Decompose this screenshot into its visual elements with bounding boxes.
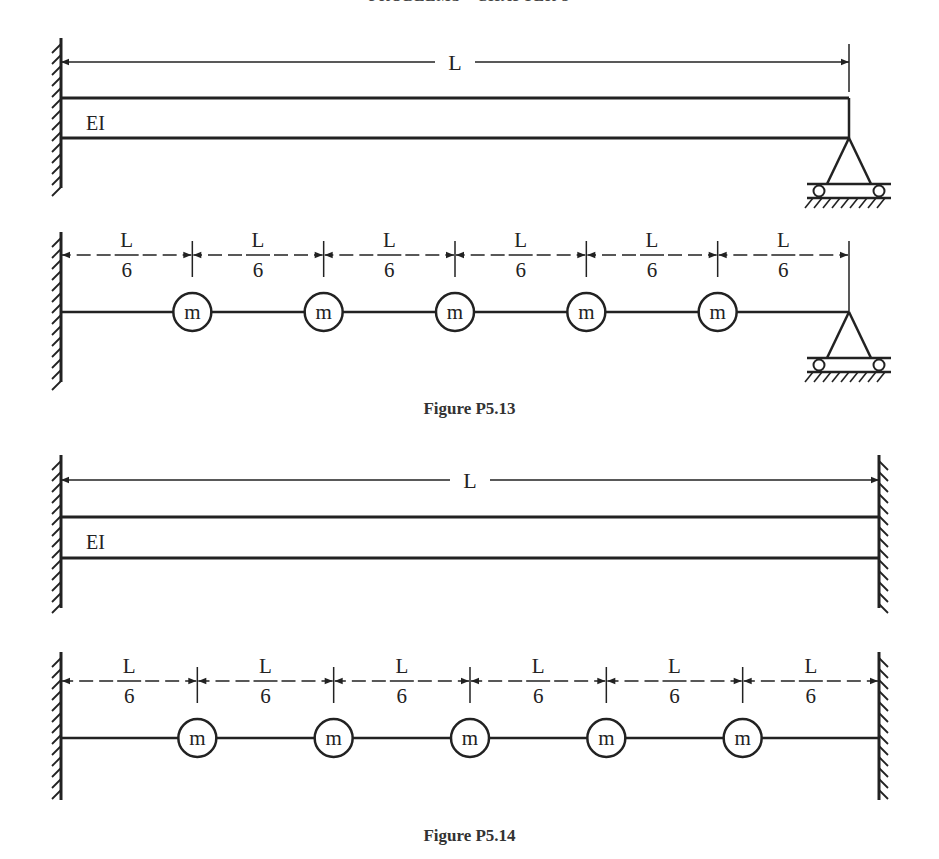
p5-14-segment-numerator: L [532, 654, 545, 678]
p5-13-segment-numerator: L [777, 228, 790, 252]
p5-14-right-fixed-wall [879, 455, 888, 613]
p5-14-stiffness-label: EI [86, 531, 105, 553]
p5-13-segment-numerator: L [120, 228, 133, 252]
p5-13-segment-numerator: L [514, 228, 527, 252]
p5-14-segment-numerator: L [804, 654, 817, 678]
p5-14-segment-numerator: L [123, 654, 136, 678]
p5-14-segment-denominator: 6 [260, 684, 271, 708]
p5-13-segment-numerator: L [383, 228, 396, 252]
p5-13-segment-denominator: 6 [253, 258, 264, 282]
p5-14-segment-denominator: 6 [533, 684, 544, 708]
p5-13-lumped-left-fixed-wall [52, 232, 61, 390]
p5-13-segment-denominator: 6 [384, 258, 395, 282]
p5-14-lumped-right-fixed-wall [879, 652, 888, 800]
p5-13-segment-denominator: 6 [647, 258, 658, 282]
p5-13-mass-label-3: m [447, 300, 463, 324]
p5-14-segment-denominator: 6 [397, 684, 408, 708]
p5-13-stiffness-label: EI [86, 112, 105, 134]
p5-13-segment-denominator: 6 [121, 258, 132, 282]
beam-diagrams: LEImmmmmL6L6L6L6L6L6LEImmmmmL6L6L6L6L6L6 [0, 0, 939, 859]
p5-14-segment-denominator: 6 [669, 684, 680, 708]
p5-13-mass-label-1: m [184, 300, 200, 324]
p5-14-mass-label-4: m [598, 726, 614, 750]
p5-14-length-label: L [463, 468, 476, 493]
p5-13-mass-label-2: m [315, 300, 331, 324]
figure-caption-p5-14: Figure P5.14 [0, 826, 939, 846]
p5-13-segment-numerator: L [646, 228, 659, 252]
p5-14-mass-label-1: m [189, 726, 205, 750]
p5-13-left-fixed-wall [52, 38, 61, 196]
p5-13-mass-label-4: m [578, 300, 594, 324]
p5-13-length-label: L [448, 50, 461, 75]
p5-14-segment-numerator: L [259, 654, 272, 678]
p5-14-segment-numerator: L [668, 654, 681, 678]
figure-caption-p5-13: Figure P5.13 [0, 399, 939, 419]
p5-14-segment-numerator: L [395, 654, 408, 678]
p5-14-mass-label-2: m [325, 726, 341, 750]
p5-13-segment-denominator: 6 [778, 258, 789, 282]
p5-13-lumped-roller-support [805, 312, 891, 382]
p5-13-segment-numerator: L [252, 228, 265, 252]
p5-14-lumped-left-fixed-wall [52, 652, 61, 800]
p5-13-mass-label-5: m [709, 300, 725, 324]
p5-13-roller-support [805, 138, 891, 208]
p5-14-segment-denominator: 6 [806, 684, 817, 708]
p5-14-segment-denominator: 6 [124, 684, 135, 708]
p5-14-mass-label-5: m [734, 726, 750, 750]
p5-13-segment-denominator: 6 [515, 258, 526, 282]
p5-14-mass-label-3: m [462, 726, 478, 750]
p5-14-left-fixed-wall [52, 455, 61, 613]
